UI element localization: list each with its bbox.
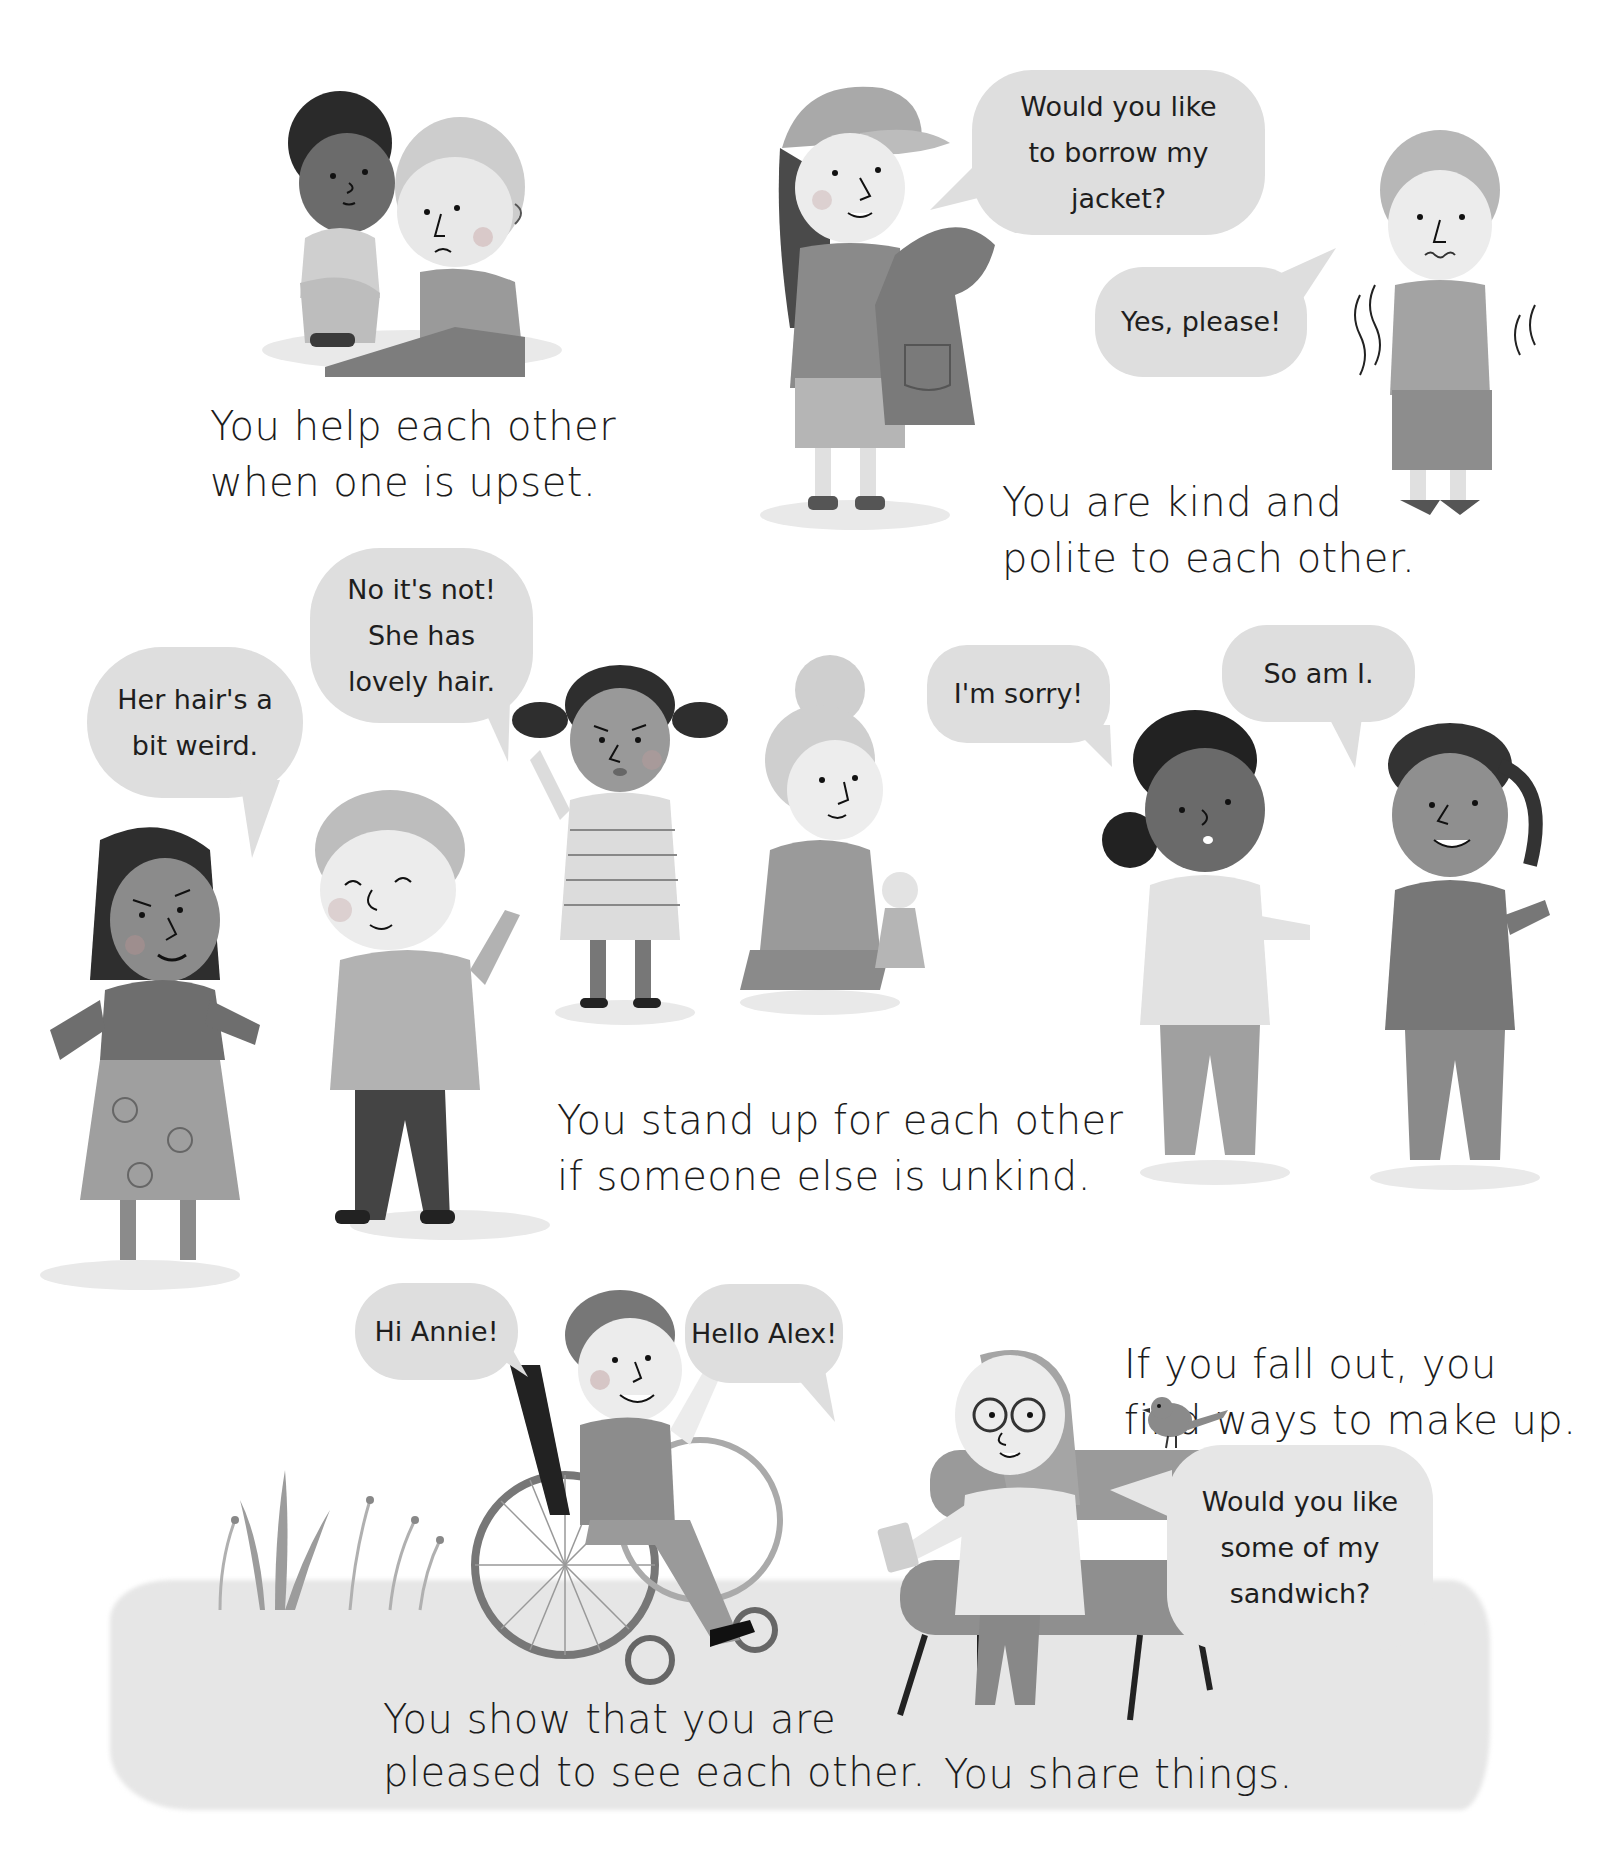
plants-illustration — [200, 1470, 460, 1610]
bubble-tail — [1270, 248, 1340, 303]
bubble-line: Hello Alex! — [691, 1311, 837, 1357]
bubble-line: bit weird. — [132, 723, 258, 769]
caption-share: You share things. — [944, 1746, 1293, 1802]
bubble-tail — [240, 780, 280, 860]
bubble-line: to borrow my — [1029, 130, 1209, 176]
bubble-line: lovely hair. — [348, 659, 495, 705]
caption-line: You share things. — [944, 1746, 1293, 1802]
bubble-tail — [930, 150, 990, 220]
caption-help: You help each other when one is upset. — [210, 398, 616, 510]
caption-line: when one is upset. — [210, 454, 616, 510]
bubble-tail — [1070, 725, 1115, 770]
ponytail-girl-illustration — [1350, 715, 1580, 1175]
caption-line: If you fall out, you — [1124, 1336, 1576, 1392]
bubble-line: Would you like — [1202, 1479, 1398, 1525]
caption-line: polite to each other. — [1002, 530, 1415, 586]
bubble-line: sandwich? — [1230, 1571, 1371, 1617]
speech-bubble-so-am-i: So am I. — [1222, 625, 1415, 722]
caption-line: You show that you are — [383, 1693, 926, 1746]
bubble-line: So am I. — [1263, 651, 1373, 697]
defending-girl-illustration — [510, 660, 730, 1020]
caption-line: if someone else is unkind. — [557, 1148, 1124, 1204]
girl-on-bench-illustration — [870, 1335, 1130, 1715]
upset-boy-illustration — [385, 112, 585, 392]
bubble-tail — [1325, 710, 1365, 770]
speech-bubble-lovely-hair: No it's not! She has lovely hair. — [310, 548, 533, 723]
speech-bubble-sandwich: Would you like some of my sandwich? — [1167, 1445, 1433, 1650]
bubble-tail — [1110, 1470, 1175, 1520]
bubble-line: jacket? — [1071, 176, 1166, 222]
bubble-tail — [480, 1345, 530, 1380]
caption-line: You help each other — [210, 398, 616, 454]
bubble-line: Would you like — [1020, 84, 1216, 130]
bubble-line: Her hair's a — [117, 677, 272, 723]
caption-kind: You are kind and polite to each other. — [1002, 474, 1415, 586]
apologising-girl-illustration — [1090, 700, 1330, 1170]
bird-icon — [1140, 1390, 1230, 1450]
bubble-line: some of my — [1221, 1525, 1380, 1571]
speech-bubble-hair-weird: Her hair's a bit weird. — [87, 647, 303, 798]
jacket-illustration — [845, 225, 1005, 435]
caption-pleased: You show that you are pleased to see eac… — [383, 1693, 926, 1799]
caption-line: You stand up for each other — [557, 1092, 1124, 1148]
speech-bubble-hello-alex: Hello Alex! — [685, 1284, 843, 1383]
bubble-tail — [790, 1370, 840, 1425]
bubble-line: She has — [368, 613, 475, 659]
caption-line: You are kind and — [1002, 474, 1415, 530]
shivering-boy-illustration — [1330, 125, 1560, 525]
caption-line: pleased to see each other. — [383, 1746, 926, 1799]
caption-stand-up: You stand up for each other if someone e… — [557, 1092, 1124, 1204]
bubble-line: I'm sorry! — [954, 671, 1083, 717]
mean-girl-illustration — [30, 820, 290, 1280]
speech-bubble-borrow-jacket: Would you like to borrow my jacket? — [972, 70, 1265, 235]
bubble-tail — [480, 700, 520, 765]
bubble-line: Yes, please! — [1121, 299, 1281, 345]
bubble-line: No it's not! — [347, 567, 496, 613]
